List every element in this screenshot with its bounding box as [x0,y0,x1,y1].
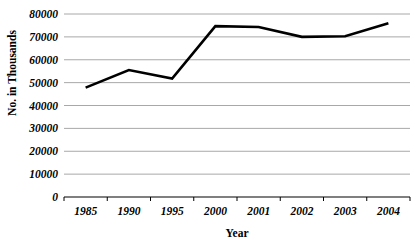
data-line-series-1 [86,23,389,88]
line-chart: No. in Thousands 80000 70000 60000 50000… [0,0,420,250]
gridlines [64,14,410,174]
plot-area [0,0,420,250]
x-axis-ticks [64,197,410,201]
